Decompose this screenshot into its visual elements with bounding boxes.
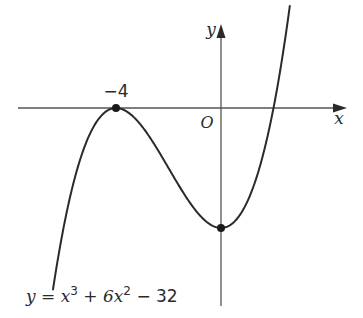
- local-max-point: [112, 104, 120, 112]
- local-min-point: [217, 224, 225, 232]
- y-axis-arrow-icon: [217, 24, 226, 38]
- local-max-label: −4: [103, 81, 128, 101]
- equation-rhs: − 32: [131, 286, 178, 306]
- equation-lhs: y = x: [25, 286, 71, 306]
- equation-exponent-2: 2: [123, 284, 131, 298]
- x-axis-label: x: [334, 108, 344, 128]
- x-axis: [18, 104, 347, 113]
- origin-label: O: [200, 113, 213, 132]
- equation-exponent-3: 3: [70, 284, 78, 298]
- y-axis-label: y: [205, 19, 216, 39]
- y-axis: [217, 24, 226, 306]
- equation-mid: + 6x: [78, 286, 124, 306]
- cubic-curve: [53, 6, 290, 289]
- equation-label: y = x3 + 6x2 − 32: [25, 284, 178, 306]
- cubic-graph: −4 O x y y = x3 + 6x2 − 32: [0, 0, 363, 318]
